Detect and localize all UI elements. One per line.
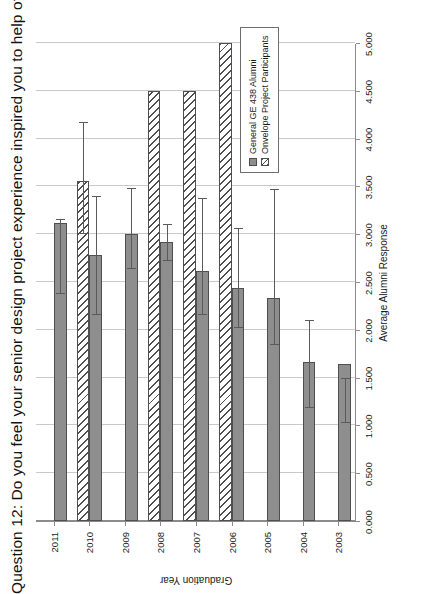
value-tick-mark	[356, 521, 360, 522]
legend: General GE 438 AlumniOnvelope Project Pa…	[240, 28, 279, 174]
value-axis-title: Average Alumni Response	[378, 224, 389, 342]
bar-general-alumni[interactable]	[125, 234, 138, 521]
value-tick-mark	[356, 234, 360, 235]
error-bar-cap	[341, 423, 350, 424]
error-bar-cap	[305, 407, 314, 408]
legend-swatch-icon	[261, 158, 269, 166]
bar-general-alumni[interactable]	[160, 242, 173, 521]
value-tick-mark	[356, 186, 360, 187]
value-tick-mark	[356, 91, 360, 92]
chart-title: Question 12: Do you feel your senior des…	[8, 0, 26, 594]
value-tick-label: 3.000	[363, 223, 374, 247]
error-bar-cap	[270, 344, 279, 345]
error-bar-cap	[234, 228, 243, 229]
error-bar-cap	[341, 378, 350, 379]
legend-label: General GE 438 Alumni	[248, 60, 258, 155]
value-tick-mark	[356, 378, 360, 379]
rotated-page-wrapper: Question 12: Do you feel your senior des…	[0, 0, 432, 594]
value-tick-label: 3.500	[363, 176, 374, 200]
legend-swatch-icon	[249, 158, 257, 166]
error-bar	[60, 219, 61, 295]
value-tick-label: 5.000	[363, 32, 374, 56]
error-bar	[274, 189, 275, 345]
error-bar-cap	[127, 188, 136, 189]
bar-group	[285, 44, 321, 521]
category-tick-mark	[232, 522, 233, 526]
value-tick-label: 1.500	[363, 367, 374, 391]
category-axis-title: Graduation Year	[160, 575, 232, 586]
bar-group	[36, 44, 72, 521]
legend-label: Onvelope Project Participants	[260, 36, 270, 155]
category-tick-label-2005: 2005	[262, 532, 273, 553]
plot-area	[36, 44, 356, 522]
error-bar-cap	[305, 320, 314, 321]
error-bar	[309, 320, 310, 408]
value-tick-mark	[356, 330, 360, 331]
category-tick-mark	[54, 522, 55, 526]
category-tick-mark	[303, 522, 304, 526]
value-tick-mark	[356, 139, 360, 140]
error-bar	[345, 378, 346, 424]
error-bar-cap	[270, 189, 279, 190]
category-tick-mark	[125, 522, 126, 526]
value-tick-mark	[356, 282, 360, 283]
bar-group	[178, 44, 214, 521]
chart-canvas: Question 12: Do you feel your senior des…	[0, 0, 432, 594]
error-bar-cap	[198, 198, 207, 199]
category-tick-label-2004: 2004	[297, 532, 308, 553]
category-tick-label-2006: 2006	[226, 532, 237, 553]
value-tick-label: 0.000	[363, 510, 374, 534]
error-bar-cap	[127, 268, 136, 269]
error-bar-cap	[79, 122, 88, 123]
error-bar	[238, 228, 239, 328]
bar-group	[107, 44, 143, 521]
category-tick-label-2008: 2008	[155, 532, 166, 553]
category-tick-label-2009: 2009	[119, 532, 130, 553]
error-bar-cap	[56, 293, 65, 294]
error-bar-cap	[79, 233, 88, 234]
value-tick-label: 4.000	[363, 128, 374, 152]
category-tick-label-2007: 2007	[191, 532, 202, 553]
error-bar-cap	[234, 327, 243, 328]
category-tick-mark	[338, 522, 339, 526]
error-bar-cap	[198, 314, 207, 315]
value-tick-label: 2.000	[363, 319, 374, 343]
category-tick-label-2011: 2011	[48, 532, 59, 552]
error-bar-cap	[56, 219, 65, 220]
category-tick-label-2010: 2010	[84, 532, 95, 553]
bar-project-participants[interactable]	[148, 91, 161, 521]
category-tick-label-2003: 2003	[333, 532, 344, 553]
error-bar-cap	[163, 260, 172, 261]
category-tick-mark	[160, 522, 161, 526]
value-tick-label: 2.500	[363, 271, 374, 295]
category-tick-mark	[196, 522, 197, 526]
error-bar-cap	[92, 314, 101, 315]
error-bar-cap	[163, 224, 172, 225]
bar-project-participants[interactable]	[183, 91, 196, 521]
bar-project-participants[interactable]	[219, 43, 232, 521]
legend-item[interactable]: General GE 438 Alumni	[248, 36, 258, 167]
value-tick-label: 4.500	[363, 80, 374, 104]
error-bar	[131, 188, 132, 268]
gridline	[36, 42, 355, 43]
error-bar	[202, 198, 203, 316]
category-tick-mark	[89, 522, 90, 526]
error-bar	[96, 196, 97, 315]
value-tick-label: 1.000	[363, 415, 374, 439]
bar-group	[143, 44, 179, 521]
value-tick-mark	[356, 425, 360, 426]
value-tick-mark	[356, 43, 360, 44]
value-tick-mark	[356, 473, 360, 474]
bar-group	[72, 44, 108, 521]
category-tick-mark	[267, 522, 268, 526]
legend-item[interactable]: Onvelope Project Participants	[260, 36, 270, 167]
error-bar	[167, 224, 168, 261]
error-bar	[83, 122, 84, 234]
error-bar-cap	[92, 196, 101, 197]
value-tick-label: 0.500	[363, 462, 374, 486]
bar-group	[320, 44, 356, 521]
